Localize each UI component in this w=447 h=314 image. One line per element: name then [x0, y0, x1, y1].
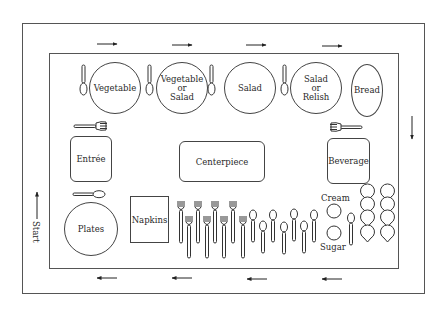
fork-icon: [240, 216, 246, 258]
spoon-icon: [301, 221, 308, 253]
fork-icon: [221, 216, 227, 258]
salad-or-relish-dish: Salad or Relish: [290, 62, 342, 114]
spoon-icon: [291, 209, 298, 241]
spoon-icon: [281, 222, 288, 254]
cup-icon: [361, 225, 375, 242]
beverage-station: Beverage: [327, 138, 370, 184]
spoon-icon: [260, 221, 267, 253]
fork-icon: [212, 201, 218, 243]
vegetable-dish: Vegetable: [89, 62, 141, 114]
salad-dish: Salad: [224, 62, 276, 114]
entree-label: Entrée: [76, 154, 105, 164]
spoon-icon: [208, 65, 215, 95]
napkins-label: Napkins: [132, 215, 168, 225]
spoon-icon: [80, 65, 87, 95]
plates-label: Plates: [78, 225, 104, 234]
entree-dish: Entrée: [70, 136, 112, 182]
fork-icon: [74, 122, 107, 131]
spoon-icon: [311, 210, 318, 242]
salad-or-relish-label: Salad or Relish: [303, 75, 330, 102]
spoon-icon: [250, 210, 257, 242]
vegetable-or-salad-label: Vegetable or Salad: [161, 75, 204, 102]
cream-cup-icon: [327, 204, 341, 218]
bread-label: Bread: [354, 86, 380, 95]
start-label: Start: [31, 221, 41, 243]
spoon-icon: [146, 65, 153, 95]
vegetable-label: Vegetable: [94, 84, 137, 93]
fork-icon: [204, 216, 210, 258]
salad-label: Salad: [238, 84, 262, 93]
fork-icon: [178, 201, 184, 243]
fork-icon: [195, 201, 201, 243]
sugar-label: Sugar: [320, 242, 346, 252]
fork-icon: [230, 201, 236, 243]
spoon-icon: [270, 210, 277, 242]
fork-icon: [330, 123, 362, 132]
napkins-stack: Napkins: [130, 196, 169, 243]
centerpiece: Centerpiece: [179, 141, 265, 182]
spoon-icon: [281, 65, 288, 95]
fork-icon: [186, 216, 192, 258]
centerpiece-label: Centerpiece: [196, 157, 249, 167]
sugar-cup-icon: [327, 226, 341, 240]
vegetable-or-salad-dish: Vegetable or Salad: [156, 62, 208, 114]
cream-label: Cream: [321, 193, 350, 203]
cup-icon: [381, 225, 395, 242]
bread-dish: Bread: [351, 64, 383, 117]
spoon-icon: [73, 191, 105, 198]
beverage-label: Beverage: [328, 156, 369, 166]
plates-stack: Plates: [64, 202, 118, 256]
spoon-icon: [348, 213, 355, 245]
